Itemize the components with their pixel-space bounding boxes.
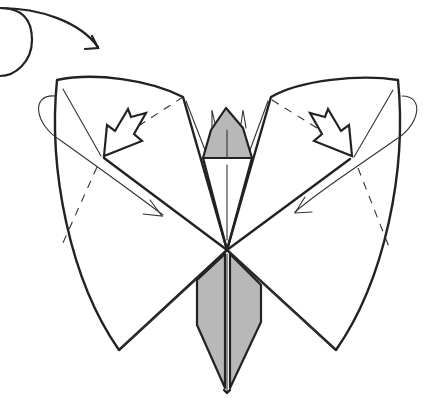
body (197, 254, 261, 393)
origami-diagram (0, 0, 431, 413)
turn-over-arrow (0, 8, 98, 76)
center-point (225, 248, 229, 252)
